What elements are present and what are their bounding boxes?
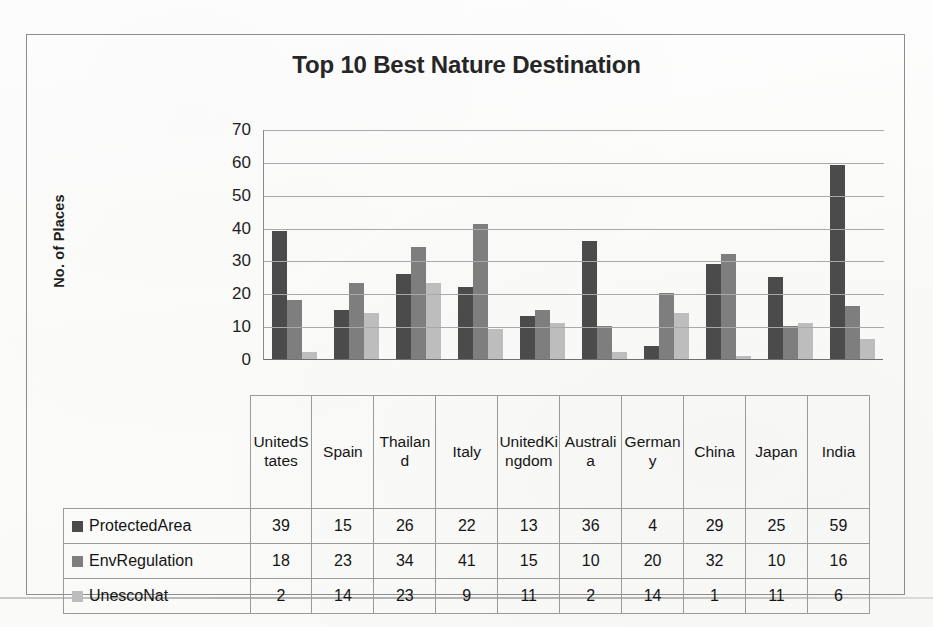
table-cell-value: 16 <box>807 544 869 579</box>
table-cell-value: 39 <box>250 509 312 544</box>
legend-entry: EnvRegulation <box>64 544 251 579</box>
category-header-cell: UnitedKingdom <box>498 396 560 509</box>
data-table: UnitedStatesSpainThailandItalyUnitedKing… <box>63 395 870 614</box>
table-cell-value: 2 <box>250 579 312 614</box>
table-corner-cell <box>64 396 251 509</box>
gridline <box>264 261 884 262</box>
table-cell-value: 2 <box>560 579 622 614</box>
table-cell-value: 32 <box>684 544 746 579</box>
gridline <box>264 196 884 197</box>
table-cell-value: 15 <box>498 544 560 579</box>
table-cell-value: 34 <box>374 544 436 579</box>
y-axis-ticks: 010203040506070 <box>223 130 257 395</box>
legend-entry: ProtectedArea <box>64 509 251 544</box>
bar <box>411 247 426 359</box>
bar <box>783 326 798 359</box>
bar <box>582 241 597 359</box>
bar <box>520 316 535 359</box>
bar <box>768 277 783 359</box>
category-header-cell: Spain <box>312 396 374 509</box>
table-cell-value: 10 <box>560 544 622 579</box>
table-cell-value: 14 <box>312 579 374 614</box>
bar <box>845 306 860 359</box>
legend-swatch-icon <box>72 556 83 567</box>
bar-cluster <box>388 130 450 359</box>
table-cell-value: 11 <box>498 579 560 614</box>
bar-cluster <box>821 130 883 359</box>
legend-entry: UnescoNat <box>64 579 251 614</box>
bar <box>659 293 674 359</box>
scanned-chart-page: Top 10 Best Nature Destination No. of Pl… <box>0 0 933 627</box>
gridline <box>264 229 884 230</box>
table-cell-value: 9 <box>436 579 498 614</box>
y-tick-label: 50 <box>232 185 251 205</box>
bar <box>535 310 550 359</box>
y-tick-label: 20 <box>232 284 251 304</box>
table-cell-value: 11 <box>746 579 808 614</box>
bar <box>736 356 751 359</box>
bar-cluster <box>450 130 512 359</box>
bar <box>302 352 317 359</box>
category-header-cell: UnitedStates <box>250 396 312 509</box>
table-cell-value: 18 <box>250 544 312 579</box>
table-cell-value: 15 <box>312 509 374 544</box>
bar-groups <box>264 130 883 359</box>
table-cell-value: 36 <box>560 509 622 544</box>
table-cell-value: 20 <box>622 544 684 579</box>
chart-title: Top 10 Best Nature Destination <box>27 51 906 79</box>
y-tick-label: 0 <box>242 350 251 370</box>
table-row: EnvRegulation18233441151020321016 <box>64 544 870 579</box>
table-cell-value: 22 <box>436 509 498 544</box>
table-cell-value: 59 <box>807 509 869 544</box>
bar-cluster <box>635 130 697 359</box>
table-row: ProtectedArea3915262213364292559 <box>64 509 870 544</box>
table-cell-value: 29 <box>684 509 746 544</box>
category-header-cell: China <box>684 396 746 509</box>
plot-canvas <box>263 130 883 360</box>
table-cell-value: 13 <box>498 509 560 544</box>
gridline <box>264 294 884 295</box>
legend-swatch-icon <box>72 521 83 532</box>
category-header-cell: India <box>807 396 869 509</box>
bar <box>550 323 565 359</box>
legend-swatch-icon <box>72 591 83 602</box>
bar <box>860 339 875 359</box>
bar <box>612 352 627 359</box>
category-header-cell: Italy <box>436 396 498 509</box>
bar-cluster <box>574 130 636 359</box>
y-tick-label: 10 <box>232 317 251 337</box>
gridline <box>264 163 884 164</box>
bar <box>798 323 813 359</box>
table-cell-value: 6 <box>807 579 869 614</box>
legend-label: UnescoNat <box>89 587 168 604</box>
bar-cluster <box>697 130 759 359</box>
bar <box>674 313 689 359</box>
category-header-cell: Australia <box>560 396 622 509</box>
y-tick-label: 30 <box>232 251 251 271</box>
table-cell-value: 23 <box>312 544 374 579</box>
legend-label: ProtectedArea <box>89 517 191 534</box>
bar <box>364 313 379 359</box>
bar <box>473 224 488 359</box>
table-cell-value: 41 <box>436 544 498 579</box>
table-cell-value: 10 <box>746 544 808 579</box>
bar <box>458 287 473 359</box>
bar-cluster <box>264 130 326 359</box>
bar <box>721 254 736 359</box>
table-cell-value: 23 <box>374 579 436 614</box>
table-cell-value: 4 <box>622 509 684 544</box>
bar <box>488 329 503 359</box>
bar <box>287 300 302 359</box>
category-header-cell: Thailand <box>374 396 436 509</box>
legend-label: EnvRegulation <box>89 552 193 569</box>
chart-frame: Top 10 Best Nature Destination No. of Pl… <box>26 34 905 595</box>
bar <box>644 346 659 359</box>
bar-cluster <box>759 130 821 359</box>
table-header-row: UnitedStatesSpainThailandItalyUnitedKing… <box>64 396 870 509</box>
table-cell-value: 25 <box>746 509 808 544</box>
data-table-body: UnitedStatesSpainThailandItalyUnitedKing… <box>64 396 870 614</box>
table-row: UnescoNat214239112141116 <box>64 579 870 614</box>
gridline <box>264 130 884 131</box>
category-header-cell: Germany <box>622 396 684 509</box>
table-cell-value: 26 <box>374 509 436 544</box>
